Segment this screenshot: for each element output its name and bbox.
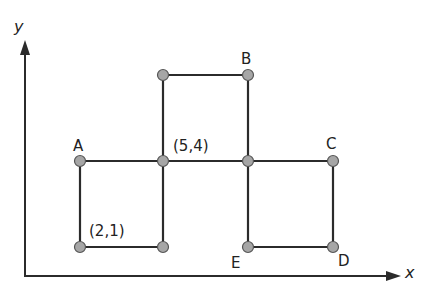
label-e: E [231,256,240,271]
node-2-1 [75,242,86,253]
x-axis-label: x [405,265,414,281]
node-mid-right [243,156,254,167]
node-a [75,156,86,167]
node-d [328,242,339,253]
node-bottom-mid-left [158,242,169,253]
label-c: C [326,137,336,152]
label-d: D [338,254,350,269]
x-axis-arrow-icon [386,271,401,281]
label-lower-left-coord: (2,1) [89,224,125,239]
label-b: B [241,52,251,67]
y-axis-arrow-icon [20,40,30,55]
node-c [328,156,339,167]
label-center-coord: (5,4) [173,139,209,154]
node-top-left [158,70,169,81]
y-axis-label: y [14,19,23,35]
node-center-5-4 [158,156,169,167]
label-a: A [73,139,83,154]
node-b [243,70,254,81]
coordinate-diagram [0,0,430,291]
node-e [243,242,254,253]
